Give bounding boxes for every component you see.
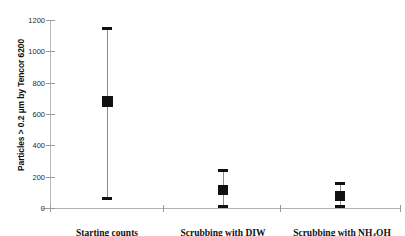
y-tick-label-0: 0 <box>41 204 45 213</box>
x-axis-label-scrubbing-diw-text: Scrubbing with DIW <box>181 228 266 236</box>
whisker-cap-low-2 <box>218 205 228 208</box>
x-tick-0 <box>50 205 51 212</box>
y-tick-label-1200: 1200 <box>28 16 45 25</box>
whisker-cap-low-3 <box>335 205 345 208</box>
y-tick-label-400: 400 <box>32 141 45 150</box>
whisker-cap-low-1 <box>102 197 112 200</box>
x-axis-label-scrubbing-nh4oh: Scrubbing with NH4OH <box>293 228 391 236</box>
y-tick-1200 <box>46 20 55 21</box>
y-tick-label-200: 200 <box>32 172 45 181</box>
y-axis-title-micron: µm <box>16 101 26 113</box>
y-axis-title: Particles > 0.2 µm by Tencor 6200 <box>16 10 26 200</box>
y-tick-label-800: 800 <box>32 78 45 87</box>
mean-marker-3 <box>335 191 345 201</box>
x-tick-3 <box>400 205 401 212</box>
chart-container: Particles > 0.2 µm by Tencor 6200 1200 1… <box>0 0 405 236</box>
x-axis-line <box>42 208 401 209</box>
y-tick-400 <box>46 145 55 146</box>
x-tick-2 <box>280 205 281 212</box>
x-axis-label-starting-counts: Starting counts <box>76 228 138 236</box>
whisker-cap-high-1 <box>102 27 112 30</box>
y-axis-title-prefix: Particles > 0.2 <box>16 113 26 171</box>
whisker-cap-high-2 <box>218 169 228 172</box>
x-tick-1 <box>163 205 164 212</box>
x-axis-label-starting-counts-text: Starting counts <box>76 228 138 236</box>
x-axis-label-scrubbing-nh4oh-text: Scrubbing with NH <box>293 228 372 236</box>
y-tick-label-600: 600 <box>32 110 45 119</box>
y-axis-title-suffix: by Tencor 6200 <box>16 39 26 101</box>
mean-marker-2 <box>218 185 228 195</box>
whisker-cap-high-3 <box>335 182 345 185</box>
y-tick-200 <box>46 177 55 178</box>
x-axis-label-scrubbing-nh4oh-tail: OH <box>376 228 391 236</box>
y-tick-600 <box>46 114 55 115</box>
plot-area: 1200 1000 800 600 400 200 0 <box>50 14 401 208</box>
mean-marker-1 <box>102 96 113 107</box>
y-tick-label-1000: 1000 <box>28 47 45 56</box>
x-axis-label-scrubbing-diw: Scrubbing with DIW <box>181 228 266 236</box>
whisker-line-1 <box>107 29 108 199</box>
y-tick-1000 <box>46 51 55 52</box>
y-tick-800 <box>46 83 55 84</box>
